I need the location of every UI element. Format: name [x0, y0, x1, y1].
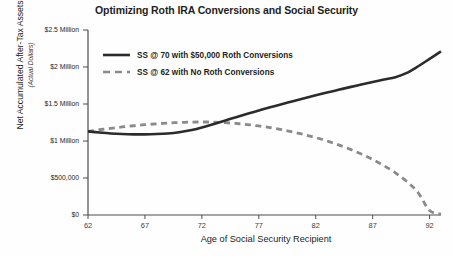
x-tick-label: 87 [369, 221, 377, 230]
x-tick-label: 62 [84, 221, 92, 230]
series-line-ss70 [88, 51, 441, 134]
y-tick-label: $1.5 Million [45, 100, 80, 107]
x-tick-label: 82 [312, 221, 320, 230]
legend: SS @ 70 with $50,000 Roth Conversions SS… [103, 51, 293, 77]
x-tick-label: 92 [425, 221, 433, 230]
x-axis-ticks: 62677277828792 [84, 215, 434, 230]
y-tick-label: $2 Million [50, 63, 79, 70]
x-tick-label: 67 [141, 221, 149, 230]
plot-area: $0$500,000$1 Million$1.5 Million$2 Milli… [0, 0, 453, 256]
y-tick-label: $2.5 Million [45, 26, 80, 33]
x-tick-label: 72 [198, 221, 206, 230]
series-line-ss62 [88, 122, 441, 214]
y-tick-label: $500,000 [51, 174, 80, 181]
chart-figure: Optimizing Roth IRA Conversions and Soci… [0, 0, 453, 256]
y-tick-label: $1 Million [50, 137, 79, 144]
y-axis-ticks: $0$500,000$1 Million$1.5 Million$2 Milli… [45, 26, 88, 218]
legend-label-ss70: SS @ 70 with $50,000 Roth Conversions [137, 51, 293, 60]
x-tick-label: 77 [255, 221, 263, 230]
x-axis-title: Age of Social Security Recipient [88, 234, 444, 244]
legend-label-ss62: SS @ 62 with No Roth Conversions [137, 68, 275, 77]
y-tick-label: $0 [71, 211, 79, 218]
